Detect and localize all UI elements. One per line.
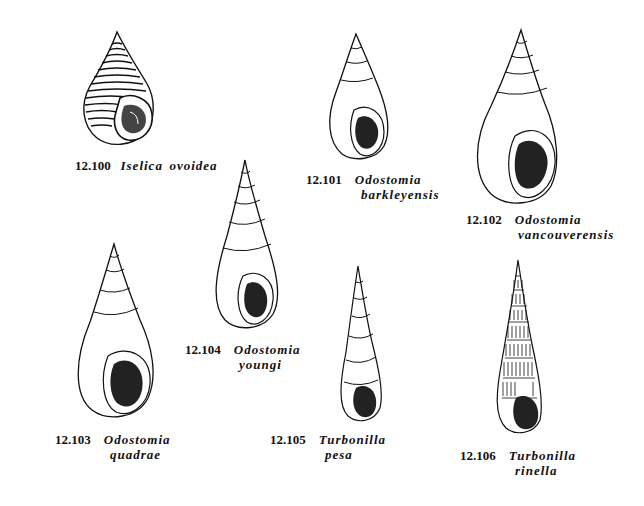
genus-name: Turbonilla: [509, 448, 576, 463]
figure-caption: 12.100 Iselica ovoidea: [75, 158, 218, 173]
figure-caption: 12.102 Odostomia vancouverensis: [466, 212, 614, 242]
figure-caption: 12.101 Odostomia barkleyensis: [306, 172, 439, 202]
figure-number: 12.104: [185, 342, 221, 357]
shell-illustration-odostomia-barkleyensis: [320, 30, 395, 165]
shell-illustration-odostomia-vancouverensis: [465, 26, 565, 211]
figure-caption: 12.106 Turbonilla rinella: [460, 448, 576, 478]
figure-caption: 12.103 Odostomia quadrae: [55, 432, 171, 462]
genus-name: Odostomia: [104, 432, 171, 447]
figure-caption: 12.105 Turbonilla pesa: [270, 432, 386, 462]
genus-name: Odostomia: [515, 212, 582, 227]
species-name: barkleyensis: [306, 187, 439, 202]
species-name: pesa: [270, 447, 386, 462]
figure-number: 12.105: [270, 432, 306, 447]
genus-name: Iselica: [121, 158, 163, 173]
shell-illustration-turbonilla-pesa: [332, 262, 387, 424]
figure-caption: 12.104 Odostomia youngi: [185, 342, 301, 372]
species-name: rinella: [460, 463, 576, 478]
figure-number: 12.102: [466, 212, 502, 227]
species-name: quadrae: [55, 447, 171, 462]
genus-name: Odostomia: [234, 342, 301, 357]
figure-number: 12.100: [75, 158, 111, 173]
figure-number: 12.103: [55, 432, 91, 447]
shell-illustration-iselica-ovoidea: [72, 26, 162, 151]
species-name: youngi: [185, 357, 301, 372]
shell-illustration-odostomia-youngi: [205, 156, 285, 334]
shell-illustration-turbonilla-rinella: [488, 256, 548, 438]
genus-name: Turbonilla: [319, 432, 386, 447]
genus-name: Odostomia: [355, 172, 422, 187]
figure-number: 12.106: [460, 448, 496, 463]
figure-number: 12.101: [306, 172, 342, 187]
shell-illustration-odostomia-quadrae: [68, 240, 158, 422]
species-name: vancouverensis: [466, 227, 614, 242]
